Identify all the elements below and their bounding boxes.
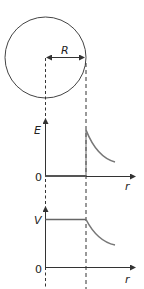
e-origin-label: 0 (35, 171, 42, 184)
e-r-label: r (125, 180, 131, 193)
field-graph: E 0 r (34, 119, 135, 193)
e-axis-label: E (34, 124, 41, 137)
potential-decay-curve (86, 220, 115, 246)
diagram-canvas: R E 0 r V 0 r (0, 0, 144, 289)
potential-graph: V 0 r (34, 207, 135, 286)
field-decay-curve (86, 130, 115, 162)
v-origin-label: 0 (35, 263, 42, 276)
v-r-label: r (125, 273, 131, 286)
v-axis-label: V (34, 214, 43, 227)
radius-label: R (61, 44, 69, 57)
